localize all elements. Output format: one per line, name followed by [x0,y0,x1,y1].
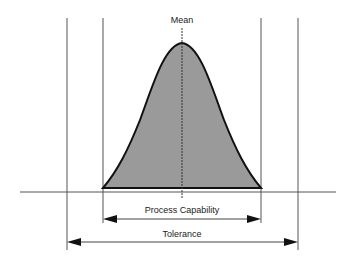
arrowhead-left-icon [67,238,81,246]
capability-diagram [0,0,352,264]
arrowhead-right-icon [247,215,261,223]
tolerance-label: Tolerance [162,229,201,239]
arrowhead-right-icon [284,238,298,246]
process-capability-label: Process Capability [145,205,220,215]
mean-label: Mean [171,15,194,25]
arrowhead-left-icon [103,215,117,223]
